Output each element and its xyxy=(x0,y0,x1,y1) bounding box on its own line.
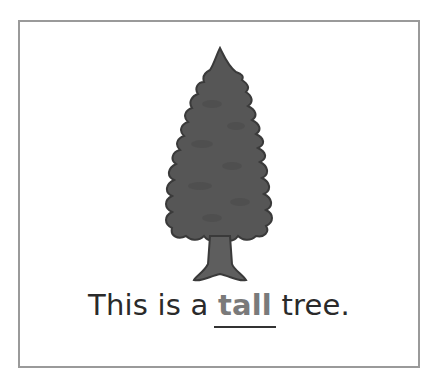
sentence-start: This is a xyxy=(88,288,218,322)
pine-tree-icon xyxy=(150,46,290,286)
worksheet-card: This is a tall tree. xyxy=(18,20,420,368)
sentence-end: tree. xyxy=(272,288,350,322)
sentence: This is a tall tree. xyxy=(20,288,418,322)
highlighted-word: tall xyxy=(218,288,272,322)
